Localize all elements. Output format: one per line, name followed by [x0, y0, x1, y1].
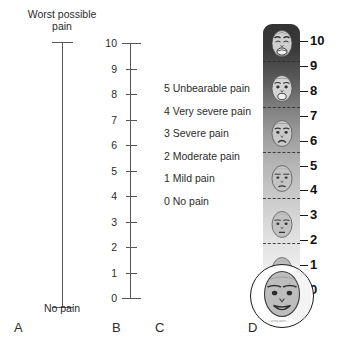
faces-number-3: 3 — [310, 208, 317, 221]
panel-letter-d: D — [248, 320, 258, 335]
vas-line — [62, 42, 63, 308]
strip-separator — [263, 61, 300, 62]
faces-number-7: 7 — [310, 109, 317, 122]
faces-number-4: 4 — [310, 183, 317, 196]
vas-top-label-line1: Worst possible — [28, 8, 97, 20]
vrs-item-3: 3 Severe pain — [164, 128, 229, 139]
faces-tick-10 — [300, 41, 308, 42]
vas-top-label-line2: pain — [52, 20, 72, 32]
panel-letter-a: A — [14, 320, 23, 335]
faces-tick-7 — [300, 116, 308, 117]
nrs-tick-4 — [126, 196, 137, 197]
faces-number-9: 9 — [310, 59, 317, 72]
magnifier-circle — [250, 264, 314, 328]
nrs-label-4: 4 — [97, 191, 117, 201]
nrs-label-9: 9 — [97, 64, 117, 74]
nrs-label-0: 0 — [97, 293, 117, 303]
nrs-label-2: 2 — [97, 242, 117, 252]
vrs-item-2: 2 Moderate pain — [164, 151, 240, 162]
faces-tick-8 — [300, 91, 308, 92]
magnified-face-icon-0 — [260, 269, 304, 319]
nrs-tick-10 — [122, 43, 141, 44]
face-icon-6 — [269, 119, 294, 148]
face-icon-8 — [269, 74, 294, 103]
face-icon-4 — [269, 164, 294, 193]
faces-number-8: 8 — [310, 84, 317, 97]
faces-tick-4 — [300, 190, 308, 191]
nrs-label-1: 1 — [97, 268, 117, 278]
faces-tick-1 — [300, 265, 308, 266]
nrs-tick-5 — [126, 171, 137, 172]
strip-separator — [263, 152, 300, 153]
panel-numeric-rating-scale: 109876543210 — [100, 0, 155, 346]
panel-letter-b: B — [112, 320, 121, 335]
faces-number-10: 10 — [310, 34, 324, 47]
faces-tick-2 — [300, 240, 308, 241]
faces-number-1: 1 — [310, 258, 317, 271]
nrs-tick-9 — [126, 69, 137, 70]
panel-letter-c: C — [155, 320, 165, 335]
vrs-item-4: 4 Very severe pain — [164, 106, 251, 117]
face-icon-10 — [269, 29, 294, 58]
nrs-label-3: 3 — [97, 217, 117, 227]
faces-gradient-strip — [263, 24, 300, 295]
nrs-label-5: 5 — [97, 166, 117, 176]
nrs-tick-7 — [126, 120, 137, 121]
nrs-label-7: 7 — [97, 115, 117, 125]
nrs-tick-3 — [126, 222, 137, 223]
pain-scales-figure: Worst possible pain No pain 109876543210… — [0, 0, 337, 346]
face-icon-2 — [269, 210, 294, 239]
faces-tick-9 — [300, 66, 308, 67]
faces-tick-3 — [300, 215, 308, 216]
faces-tick-6 — [300, 141, 308, 142]
panel-faces-pain-scale: 109876543210 © Wong-Baker — [240, 0, 337, 346]
nrs-tick-0 — [122, 298, 141, 299]
vrs-item-5: 5 Unbearable pain — [164, 83, 250, 94]
strip-separator — [263, 198, 300, 199]
faces-number-2: 2 — [310, 233, 317, 246]
nrs-tick-8 — [126, 94, 137, 95]
nrs-tick-6 — [126, 145, 137, 146]
panel-visual-analogue-scale: Worst possible pain No pain — [0, 0, 110, 346]
vrs-item-1: 1 Mild pain — [164, 173, 215, 184]
faces-number-5: 5 — [310, 159, 317, 172]
vrs-item-0: 0 No pain — [164, 196, 209, 207]
nrs-tick-2 — [126, 247, 137, 248]
strip-separator — [263, 107, 300, 108]
faces-tick-5 — [300, 166, 308, 167]
strip-separator — [263, 243, 300, 244]
nrs-label-8: 8 — [97, 89, 117, 99]
nrs-label-10: 10 — [97, 38, 117, 48]
attribution-text: © Wong-Baker — [268, 320, 314, 323]
nrs-tick-1 — [126, 273, 137, 274]
faces-number-6: 6 — [310, 134, 317, 147]
nrs-label-6: 6 — [97, 140, 117, 150]
